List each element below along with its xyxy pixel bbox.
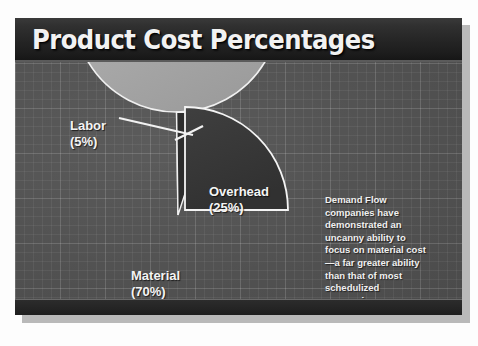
presentation-slide: Product Cost Percentages <box>15 18 462 315</box>
slide-footer-bar <box>15 299 462 315</box>
pie-label-labor-percent: (5%) <box>70 134 106 150</box>
side-note-text: Demand Flow companies have demonstrated … <box>325 194 429 307</box>
pie-label-labor-name: Labor <box>70 118 106 133</box>
slide-title-bar: Product Cost Percentages <box>15 18 462 62</box>
pie-label-material: Material (70%) <box>131 268 180 299</box>
page-title: Product Cost Percentages <box>32 23 375 56</box>
pie-label-overhead: Overhead (25%) <box>209 184 269 215</box>
pie-label-labor: Labor (5%) <box>70 118 106 149</box>
pie-label-overhead-name: Overhead <box>209 184 269 199</box>
pie-label-material-name: Material <box>131 268 180 283</box>
pie-label-material-percent: (70%) <box>131 284 180 300</box>
slide-stage: Product Cost Percentages <box>0 0 478 346</box>
pie-label-overhead-percent: (25%) <box>209 200 269 216</box>
pie-chart: Labor (5%) Overhead (25%) Material (70%)… <box>15 62 462 300</box>
